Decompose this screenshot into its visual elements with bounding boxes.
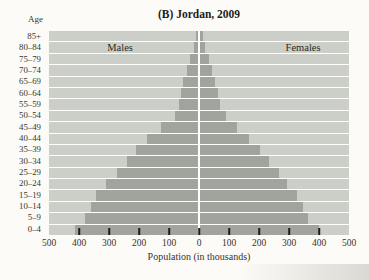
male-bar — [117, 168, 200, 178]
male-bar — [96, 190, 199, 200]
axis-tick-mark — [78, 228, 80, 235]
age-tick-label: 40–44 — [0, 133, 45, 144]
male-bar — [85, 213, 199, 223]
male-bar — [179, 99, 199, 109]
age-tick-label: 0–4 — [0, 224, 45, 235]
chart-title: (B) Jordan, 2009 — [49, 8, 349, 20]
male-bar — [91, 202, 199, 212]
x-axis-title: Population (in thousands) — [49, 251, 349, 262]
age-axis-labels: 85+80–8475–7970–7465–6960–6455–5950–5445… — [0, 31, 45, 235]
x-tick-label: 100 — [162, 238, 176, 248]
female-bar — [199, 179, 287, 189]
male-bar — [183, 77, 199, 87]
male-bar — [75, 225, 200, 235]
age-tick-label: 30–34 — [0, 156, 45, 167]
x-tick-label: 300 — [102, 238, 116, 248]
x-tick-label: 200 — [252, 238, 266, 248]
female-bar — [199, 190, 297, 200]
age-tick-label: 15–19 — [0, 190, 45, 201]
age-tick-label: 75–79 — [0, 54, 45, 65]
age-tick-label: 85+ — [0, 31, 45, 42]
female-bar — [199, 156, 269, 166]
female-bar — [199, 168, 279, 178]
female-bar — [199, 134, 249, 144]
axis-tick-mark — [138, 228, 140, 235]
x-tick-label: 500 — [42, 238, 56, 248]
male-bar — [136, 145, 199, 155]
axis-tick-mark — [318, 228, 320, 235]
age-tick-label: 50–54 — [0, 110, 45, 121]
female-bar — [199, 54, 209, 64]
female-bar — [199, 99, 220, 109]
x-tick-label: 500 — [342, 238, 356, 248]
female-bar — [199, 42, 205, 52]
female-bar — [199, 202, 303, 212]
age-tick-label: 45–49 — [0, 122, 45, 133]
center-axis-line — [198, 31, 200, 235]
male-bar — [106, 179, 199, 189]
axis-tick-mark — [228, 228, 230, 235]
age-tick-label: 20–24 — [0, 178, 45, 189]
x-axis-tick-labels: 5004003002001000100200300400500 — [49, 238, 349, 250]
female-bar — [199, 111, 226, 121]
x-tick-label: 400 — [72, 238, 86, 248]
age-tick-label: 35–39 — [0, 144, 45, 155]
males-label: Males — [107, 42, 133, 53]
x-tick-label: 300 — [282, 238, 296, 248]
age-tick-label: 70–74 — [0, 65, 45, 76]
x-tick-label: 200 — [132, 238, 146, 248]
age-tick-label: 25–29 — [0, 167, 45, 178]
female-bar — [199, 65, 212, 75]
age-tick-label: 80–84 — [0, 42, 45, 53]
female-bar — [199, 145, 260, 155]
page-scan-artifact — [239, 264, 369, 280]
male-bar — [127, 156, 199, 166]
axis-tick-mark — [258, 228, 260, 235]
female-bar — [199, 88, 218, 98]
axis-tick-mark — [108, 228, 110, 235]
male-bar — [181, 88, 199, 98]
axis-tick-mark — [288, 228, 290, 235]
x-tick-label: 100 — [222, 238, 236, 248]
pyramid-plot-area: Males Females — [49, 31, 349, 235]
axis-tick-mark — [198, 228, 200, 235]
female-bar — [199, 122, 237, 132]
age-tick-label: 10–14 — [0, 201, 45, 212]
female-bar — [199, 213, 308, 223]
male-bar — [147, 134, 200, 144]
females-label: Females — [286, 42, 321, 53]
x-tick-label: 0 — [197, 238, 202, 248]
male-bar — [175, 111, 199, 121]
male-bar — [187, 65, 199, 75]
age-axis-header: Age — [0, 14, 43, 24]
age-tick-label: 5–9 — [0, 212, 45, 223]
female-bar — [199, 77, 215, 87]
x-tick-label: 400 — [312, 238, 326, 248]
age-tick-label: 60–64 — [0, 88, 45, 99]
age-tick-label: 55–59 — [0, 99, 45, 110]
age-tick-label: 65–69 — [0, 76, 45, 87]
male-bar — [161, 122, 199, 132]
axis-tick-mark — [168, 228, 170, 235]
